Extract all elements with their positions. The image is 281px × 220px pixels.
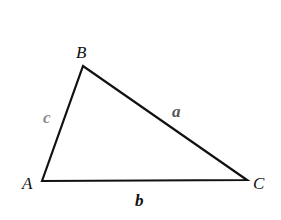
side-label-a: a <box>172 102 181 121</box>
vertex-label-b: B <box>76 43 87 62</box>
side-label-b: b <box>135 191 144 210</box>
vertex-label-c: C <box>253 174 265 193</box>
side-label-c: c <box>43 108 51 127</box>
triangle-abc <box>42 66 247 181</box>
vertex-label-a: A <box>21 174 33 193</box>
triangle-diagram: A B C a b c <box>0 0 281 220</box>
